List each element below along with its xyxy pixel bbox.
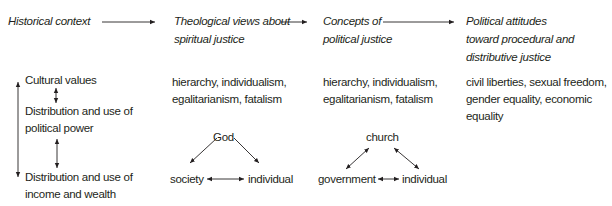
theological-values-line2: egalitarianism, fatalism: [172, 92, 282, 107]
political-values-line1: civil liberties, sexual freedom,: [466, 75, 607, 90]
node-church: church: [366, 130, 399, 145]
header-political-line3: distributive justice: [466, 50, 551, 65]
header-theological-views-line2: spiritual justice: [174, 32, 244, 47]
node-individual-political: individual: [402, 172, 447, 187]
arrow-church-individual: [394, 148, 419, 169]
header-concepts-line1: Concepts of: [323, 14, 381, 29]
label-income-wealth-line2: income and wealth: [25, 187, 116, 202]
arrow-church-government: [346, 148, 369, 169]
node-society: society: [170, 172, 204, 187]
label-political-power-line1: Distribution and use of: [25, 104, 133, 119]
node-government: government: [318, 172, 376, 187]
arrow-god-individual: [234, 138, 259, 163]
concepts-values-line1: hierarchy, individualism,: [323, 75, 437, 90]
political-values-line3: equality: [466, 109, 503, 124]
label-cultural-values: Cultural values: [25, 73, 97, 88]
node-god: God: [213, 130, 234, 145]
concepts-values-line2: egalitarianism, fatalism: [323, 92, 433, 107]
header-concepts-line2: political justice: [323, 32, 392, 47]
political-values-line2: gender equality, economic: [466, 92, 592, 107]
theological-values-line1: hierarchy, individualism,: [172, 75, 286, 90]
header-political-line2: toward procedural and: [466, 32, 574, 47]
node-individual-spiritual: individual: [248, 172, 293, 187]
label-political-power-line2: political power: [25, 121, 93, 136]
header-theological-views-line1: Theological views about: [174, 14, 290, 29]
label-income-wealth-line1: Distribution and use of: [25, 170, 133, 185]
header-historical-context: Historical context: [8, 14, 90, 29]
header-political-line1: Political attitudes: [466, 14, 547, 29]
